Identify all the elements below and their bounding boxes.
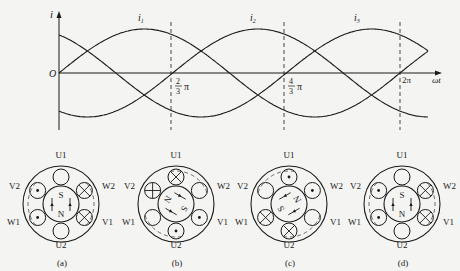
slot-label-u1: U1 <box>56 150 67 160</box>
slot-label-u1: U1 <box>284 150 295 160</box>
pole-label-south: S <box>399 190 404 200</box>
slot-circle <box>304 210 320 226</box>
slot-label-v1: V1 <box>443 217 454 227</box>
flux-line <box>145 215 182 237</box>
marker-label-2-pi: 2π <box>402 75 412 85</box>
flux-arrow-icon <box>409 203 413 206</box>
marker-label-2-3-pi: 2 3 π <box>175 77 189 96</box>
current-in-cross-icon <box>420 212 431 223</box>
slot-v2 <box>258 183 274 199</box>
slot-circle <box>191 183 207 199</box>
flux-line <box>86 183 94 225</box>
slot-v1 <box>191 210 207 226</box>
slot-label-v2: V2 <box>9 181 20 191</box>
slot-label-w1: W1 <box>7 217 20 227</box>
stator-outline <box>23 166 99 242</box>
slot-circle <box>394 223 410 239</box>
stator-diagram-c: SNU1W2V1U2W1V2(c) <box>235 150 343 268</box>
rotating-field-figure: i ωt O 2 3 π 4 3 π 2π i1 i2 i3 SNU1W2V1U… <box>0 0 460 271</box>
y-axis-label: i <box>50 8 53 20</box>
current-out-dot-icon <box>175 230 178 233</box>
pole-label-north: N <box>399 209 406 219</box>
slot-w1 <box>258 210 274 226</box>
slot-label-w2: W2 <box>102 181 115 191</box>
flux-line <box>283 215 320 237</box>
diagram-caption: (c) <box>285 258 295 268</box>
slot-label-u2: U2 <box>397 240 408 250</box>
slot-label-w2: W2 <box>330 181 343 191</box>
current-out-dot-icon <box>377 216 380 219</box>
flux-line <box>28 183 36 225</box>
pole-label-south: S <box>58 190 63 200</box>
flux-line <box>258 171 295 193</box>
slot-w2 <box>304 183 320 199</box>
flux-arrow-icon <box>391 203 395 206</box>
slot-circle <box>394 169 410 185</box>
current-in-cross-icon <box>170 171 181 182</box>
svg-text:π: π <box>184 81 189 92</box>
slot-w1 <box>371 210 387 226</box>
slot-w2 <box>191 183 207 199</box>
current-in-cross-icon <box>260 212 271 223</box>
slot-v1 <box>417 210 433 226</box>
slot-label-v1: V1 <box>217 217 228 227</box>
current-in-cross-icon <box>79 185 90 196</box>
slot-label-w2: W2 <box>217 181 230 191</box>
slot-u2 <box>394 223 410 239</box>
svg-text:3: 3 <box>176 87 180 96</box>
three-phase-waveform: i ωt O 2 3 π 4 3 π 2π i1 i2 i3 <box>49 8 442 130</box>
curve-label-i2: i2 <box>250 12 256 24</box>
x-axis-label: ωt <box>432 75 441 85</box>
flux-line <box>170 171 207 193</box>
slot-u1 <box>53 169 69 185</box>
slot-label-u2: U2 <box>171 240 182 250</box>
slot-label-w1: W1 <box>348 217 361 227</box>
pole-label-north: N <box>162 194 174 205</box>
current-in-cross-icon <box>283 225 294 236</box>
slot-u2 <box>53 223 69 239</box>
flux-arrow-icon <box>68 203 72 206</box>
svg-text:2: 2 <box>176 77 180 86</box>
slot-v2 <box>30 183 46 199</box>
current-out-dot-icon <box>311 189 314 192</box>
slot-label-w2: W2 <box>443 181 456 191</box>
slot-u2 <box>281 223 297 239</box>
curve-label-i1: i1 <box>138 12 144 24</box>
rotor <box>271 186 307 222</box>
y-axis-arrow-icon <box>57 11 62 18</box>
slot-label-v1: V1 <box>330 217 341 227</box>
rotor <box>158 186 194 222</box>
slot-circle <box>258 183 274 199</box>
slot-w2 <box>417 183 433 199</box>
slot-v2 <box>371 183 387 199</box>
slot-w1 <box>30 210 46 226</box>
slot-v1 <box>76 210 92 226</box>
flux-line <box>427 183 435 225</box>
current-out-dot-icon <box>36 189 39 192</box>
flux-line <box>369 183 377 225</box>
slot-u1 <box>394 169 410 185</box>
stator-diagram-b: SNU1W2V1U2W1V2(b) <box>122 150 230 268</box>
svg-text:3: 3 <box>289 87 293 96</box>
stator-outline <box>364 166 440 242</box>
stator-diagram-d: SNU1W2V1U2W1V2(d) <box>348 150 456 268</box>
slot-label-v2: V2 <box>237 181 248 191</box>
diagram-caption: (a) <box>57 258 67 268</box>
pole-label-south: S <box>179 204 190 213</box>
current-out-dot-icon <box>198 216 201 219</box>
slot-circle <box>53 223 69 239</box>
slot-label-v2: V2 <box>350 181 361 191</box>
current-in-cross-icon <box>79 212 90 223</box>
flux-arrow-icon <box>50 203 54 206</box>
curve-label-i3: i3 <box>354 12 360 24</box>
svg-text:π: π <box>297 81 302 92</box>
slot-v2 <box>145 183 161 199</box>
slot-u1 <box>168 169 184 185</box>
slot-label-u2: U2 <box>56 240 67 250</box>
origin-label: O <box>49 68 56 79</box>
slot-v1 <box>304 210 320 226</box>
pole-label-south: S <box>275 204 286 213</box>
diagram-caption: (d) <box>398 258 409 268</box>
slot-label-u2: U2 <box>284 240 295 250</box>
current-out-dot-icon <box>377 189 380 192</box>
